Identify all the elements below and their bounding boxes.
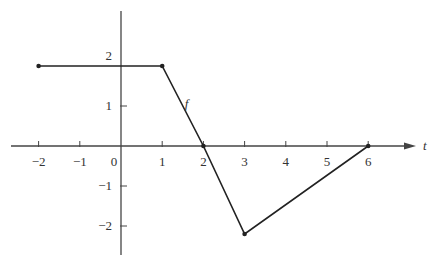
data-point (160, 64, 165, 69)
x-axis-label: t (423, 138, 427, 153)
data-point (366, 144, 371, 149)
series-f (36, 64, 370, 237)
x-tick-label: 0 (111, 154, 118, 169)
x-tick-label: 2 (200, 154, 207, 169)
x-tick-label: 3 (241, 154, 248, 169)
data-point (36, 64, 41, 69)
x-tick-label: −2 (32, 154, 46, 169)
data-point (201, 144, 206, 149)
tick-marks: −2−10123456−2−112 (32, 48, 372, 233)
y-tick-label: 1 (106, 98, 113, 113)
x-tick-label: 6 (365, 154, 372, 169)
x-tick-label: 1 (159, 154, 166, 169)
y-tick-label: −1 (98, 178, 112, 193)
curve-label-f: f (185, 96, 191, 111)
x-tick-label: 4 (283, 154, 290, 169)
y-tick-label: 2 (106, 48, 113, 63)
x-tick-label: 5 (324, 154, 331, 169)
data-point (242, 232, 247, 237)
x-axis-arrow-icon (404, 143, 416, 150)
axes (11, 11, 416, 255)
series-line (39, 66, 369, 234)
function-graph: −2−10123456−2−112 t f (0, 0, 440, 261)
y-tick-label: −2 (98, 218, 112, 233)
x-tick-label: −1 (73, 154, 87, 169)
